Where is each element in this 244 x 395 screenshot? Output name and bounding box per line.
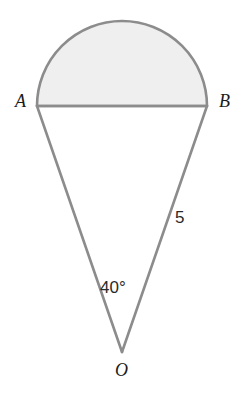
- semicircle-region: [37, 21, 207, 106]
- vertex-label-a: A: [15, 92, 26, 110]
- vertex-label-b: B: [219, 92, 230, 110]
- angle-label: 40°: [100, 279, 126, 296]
- vertex-label-o: O: [115, 361, 128, 379]
- geometry-figure: A B O 40° 5: [0, 0, 244, 395]
- side-length-label: 5: [175, 209, 184, 226]
- segment-oa: [37, 106, 122, 352]
- geometry-canvas: [0, 0, 244, 395]
- segment-ob: [122, 106, 207, 352]
